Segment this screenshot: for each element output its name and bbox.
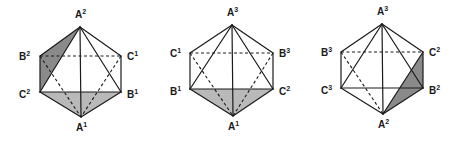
vertex-label-b2: B2 [429, 84, 440, 96]
edge-a3-b3 [341, 24, 382, 52]
edge-a3-b2 [382, 24, 423, 88]
vertex-label-a1: A1 [76, 121, 87, 133]
shaded-face-b1-c2-a1 [190, 89, 273, 116]
vertex-label-a2: A2 [378, 118, 389, 130]
edge-a3-c2 [382, 24, 423, 52]
edge-a3-b3 [232, 25, 273, 53]
edge-a3-a2 [382, 24, 383, 114]
vertex-label-b3: B3 [279, 47, 290, 59]
vertex-label-b2: B2 [19, 50, 30, 62]
vertex-label-b1: B1 [127, 88, 138, 100]
octahedron-3: A3B3C2C3B2A2 [321, 5, 440, 130]
vertex-label-c2: C2 [429, 46, 440, 58]
vertex-label-a3: A3 [377, 5, 388, 17]
edge-a3-c3 [341, 24, 382, 88]
hidden-edge-b3-a1 [233, 53, 273, 116]
edge-a2-b1 [80, 27, 121, 92]
vertex-label-b3: B3 [321, 46, 332, 58]
vertex-label-c1: C1 [127, 50, 138, 62]
hidden-edge-b3-a2 [341, 52, 383, 114]
edge-a3-b1 [190, 25, 232, 89]
hidden-edge-b2-a1 [40, 56, 81, 117]
octahedron-diagrams: A2B2C1C2B1A1 A3C1B3B1C2A1 A3B3C2C3B2A2 [0, 0, 464, 141]
vertex-label-c2: C2 [279, 85, 290, 97]
edge-c3-a2 [341, 88, 383, 114]
diagram-canvas: A2B2C1C2B1A1 A3C1B3B1C2A1 A3B3C2C3B2A2 [0, 0, 464, 141]
edge-a3-c1 [190, 25, 232, 53]
vertex-label-c2: C2 [19, 88, 30, 100]
edge-a2-c1 [80, 27, 121, 56]
vertex-label-c1: C1 [170, 47, 181, 59]
vertex-label-a3: A3 [227, 6, 238, 18]
vertex-label-a2: A2 [75, 8, 86, 20]
vertex-label-b1: B1 [170, 85, 181, 97]
edge-a3-c2 [232, 25, 273, 89]
vertex-label-c3: C3 [321, 84, 332, 96]
octahedron-1: A2B2C1C2B1A1 [19, 8, 138, 133]
octahedron-2: A3C1B3B1C2A1 [170, 6, 290, 132]
hidden-edge-c1-a1 [81, 56, 121, 117]
vertex-label-a1: A1 [228, 120, 239, 132]
